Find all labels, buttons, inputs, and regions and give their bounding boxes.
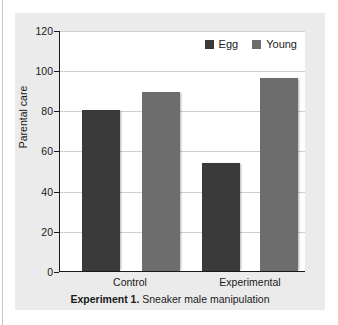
x-category-label-control: Control <box>113 276 147 288</box>
gridline-120 <box>60 31 305 32</box>
gridline-100 <box>60 71 305 72</box>
caption-text: Sneaker male manipulation <box>139 293 269 305</box>
bar-control-egg <box>82 110 120 271</box>
y-tick-label-60: 60 <box>23 146 53 157</box>
legend-label-young: Young <box>266 39 297 50</box>
y-tick-label-100: 100 <box>23 66 53 77</box>
legend-item-young: Young <box>252 39 297 50</box>
chart-legend: Egg Young <box>205 39 297 50</box>
legend-swatch-icon-young <box>252 40 261 49</box>
page-margin-rule <box>2 0 3 325</box>
legend-label-egg: Egg <box>219 39 239 50</box>
figure-caption: Experiment 1. Sneaker male manipulation <box>15 293 325 305</box>
y-tick-label-20: 20 <box>23 227 53 238</box>
y-tick-mark-0 <box>54 272 59 273</box>
plot-area: Egg Young <box>59 31 305 272</box>
bar-experimental-egg <box>202 163 240 271</box>
legend-swatch-icon-egg <box>205 40 214 49</box>
figure-panel: Parental care 120 100 80 60 40 20 0 <box>15 13 325 310</box>
legend-item-egg: Egg <box>205 39 239 50</box>
caption-bold-label: Experiment 1. <box>70 293 139 305</box>
x-category-label-experimental: Experimental <box>219 276 280 288</box>
y-tick-label-40: 40 <box>23 187 53 198</box>
y-tick-label-120: 120 <box>23 26 53 37</box>
y-tick-label-80: 80 <box>23 106 53 117</box>
bar-control-young <box>142 92 180 271</box>
bar-chart: Parental care 120 100 80 60 40 20 0 <box>15 13 325 281</box>
bar-experimental-young <box>260 78 298 271</box>
y-tick-label-0: 0 <box>23 267 53 278</box>
